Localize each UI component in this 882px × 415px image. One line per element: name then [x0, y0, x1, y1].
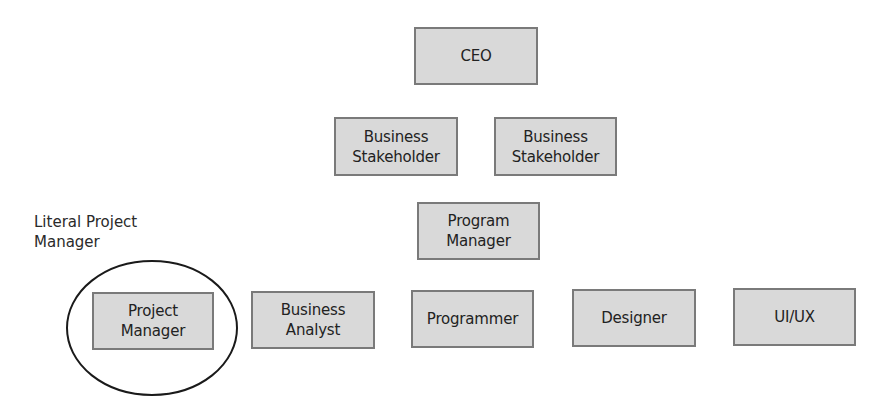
- node-ceo: CEO: [414, 27, 538, 85]
- node-business-stakeholder-1-label: Business Stakeholder: [352, 127, 440, 167]
- node-programmer-label: Programmer: [427, 309, 518, 329]
- node-designer-label: Designer: [601, 308, 667, 328]
- node-ui-ux: UI/UX: [733, 288, 856, 346]
- node-program-manager: Program Manager: [417, 202, 540, 260]
- node-designer: Designer: [572, 289, 696, 347]
- node-program-manager-label: Program Manager: [446, 211, 510, 251]
- node-business-analyst-label: Business Analyst: [281, 300, 346, 340]
- node-ui-ux-label: UI/UX: [774, 307, 815, 327]
- node-business-stakeholder-2-label: Business Stakeholder: [512, 127, 600, 167]
- annotation-literal-project-manager: Literal Project Manager: [34, 212, 137, 252]
- node-business-analyst: Business Analyst: [251, 291, 375, 349]
- node-ceo-label: CEO: [460, 46, 491, 66]
- node-business-stakeholder-2: Business Stakeholder: [494, 117, 617, 176]
- node-project-manager: Project Manager: [92, 292, 214, 350]
- node-business-stakeholder-1: Business Stakeholder: [334, 117, 458, 176]
- node-programmer: Programmer: [411, 290, 534, 348]
- node-project-manager-label: Project Manager: [121, 301, 185, 341]
